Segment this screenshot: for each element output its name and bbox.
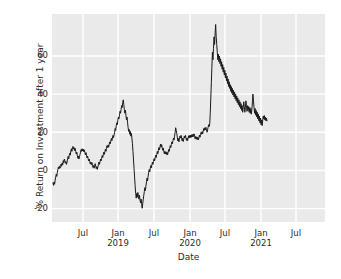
x-tick-label: Jan2019	[107, 228, 129, 248]
x-axis-tick-labels: JulJan2019JulJan2020JulJan2021Jul	[0, 0, 341, 279]
x-tick-label-main: Jul	[291, 228, 301, 238]
x-tick-label-main: Jul	[149, 228, 159, 238]
x-tick-label-main: Jan	[254, 228, 267, 238]
x-tick-label-year: 2019	[107, 238, 129, 248]
x-axis-title: Date	[52, 252, 325, 262]
x-tick-label: Jul	[149, 228, 159, 238]
y-axis-title: % Return on Investment after 1 year	[35, 22, 45, 230]
x-tick-label: Jul	[220, 228, 230, 238]
y-axis-title-wrap: % Return on Investment after 1 year	[14, 14, 26, 222]
x-tick-label-main: Jul	[78, 228, 88, 238]
x-tick-label: Jul	[78, 228, 88, 238]
x-tick-label: Jul	[291, 228, 301, 238]
x-tick-label-main: Jan	[183, 228, 196, 238]
roi-line-chart: -200204060 JulJan2019JulJan2020JulJan202…	[0, 0, 341, 279]
x-tick-label-main: Jan	[111, 228, 124, 238]
x-tick-label-main: Jul	[220, 228, 230, 238]
x-tick-label: Jan2021	[250, 228, 272, 248]
x-tick-label: Jan2020	[179, 228, 201, 248]
x-tick-label-year: 2021	[250, 238, 272, 248]
x-tick-label-year: 2020	[179, 238, 201, 248]
